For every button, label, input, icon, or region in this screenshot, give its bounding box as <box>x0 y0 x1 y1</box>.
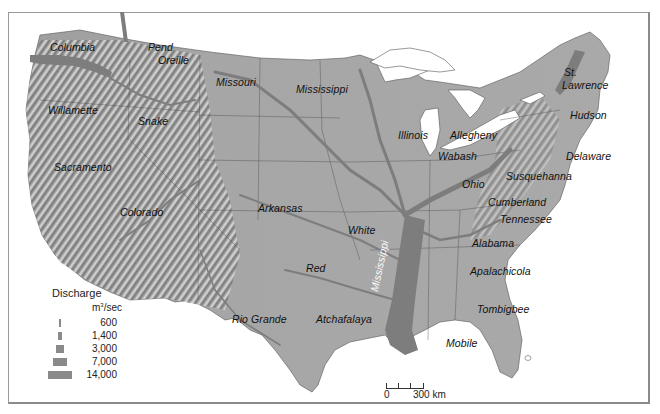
legend-bar <box>56 345 64 353</box>
legend-row-1400: 1,400 <box>22 330 117 342</box>
label-pend: Pend <box>148 41 173 53</box>
legend-row-3000: 3,000 <box>22 343 117 355</box>
legend-bar <box>58 332 62 340</box>
label-alabama: Alabama <box>472 237 514 249</box>
label-mobile: Mobile <box>446 337 478 349</box>
legend-row-14000: 14,000 <box>22 369 117 381</box>
label-white: White <box>348 224 375 236</box>
label-sacramento: Sacramento <box>54 161 112 173</box>
label-hudson: Hudson <box>570 109 607 121</box>
label-illinois: Illinois <box>398 129 428 141</box>
label-missouri: Missouri <box>216 76 256 88</box>
label-red: Red <box>306 262 326 274</box>
label-st: St. <box>564 66 577 78</box>
label-columbia: Columbia <box>50 41 95 53</box>
scale-end: 300 km <box>413 389 446 400</box>
label-allegheny: Allegheny <box>450 129 497 141</box>
label-atchafalaya: Atchafalaya <box>316 313 372 325</box>
label-cumberland: Cumberland <box>488 196 546 208</box>
label-oreille: Oreille <box>158 54 189 66</box>
label-arkansas: Arkansas <box>258 202 303 214</box>
scale-start: 0 <box>384 389 390 400</box>
label-delaware: Delaware <box>566 150 611 162</box>
label-tombigbee: Tombigbee <box>477 303 529 315</box>
legend-bar <box>48 371 72 379</box>
label-rio-grande: Rio Grande <box>232 313 287 325</box>
label-apalachicola: Apalachicola <box>470 265 531 277</box>
label-lawrence: Lawrence <box>562 79 608 91</box>
label-tennessee: Tennessee <box>500 213 552 225</box>
label-wabash: Wabash <box>438 150 477 162</box>
legend-unit: m3/sec <box>92 302 122 313</box>
legend-title: Discharge <box>52 287 102 299</box>
label-susquehanna: Susquehanna <box>506 170 572 182</box>
label-ohio: Ohio <box>462 178 485 190</box>
label-willamette: Willamette <box>48 104 98 116</box>
columbia-plume <box>120 12 128 42</box>
label-snake: Snake <box>138 115 168 127</box>
label-colorado: Colorado <box>120 206 163 218</box>
lake-okeechobee <box>525 356 531 361</box>
legend-row-600: 600 <box>22 317 117 329</box>
legend-bar <box>59 319 61 327</box>
legend-row-7000: 7,000 <box>22 356 117 368</box>
legend-bar <box>53 358 67 366</box>
label-mississippi-north: Mississippi <box>296 83 348 95</box>
